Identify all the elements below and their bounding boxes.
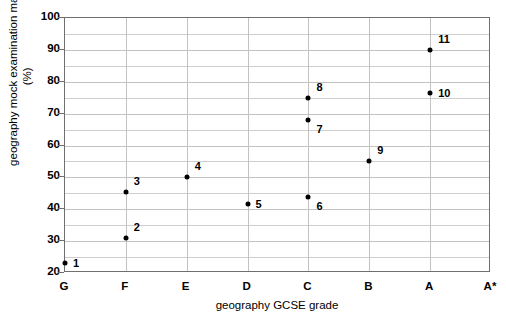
data-point [123,235,128,240]
data-point-label: 2 [134,222,140,233]
plot-area: 1234567891011 [64,17,490,272]
data-point-label: 10 [438,88,450,99]
gridline-horizontal [65,209,489,210]
gridline-vertical [369,18,370,271]
data-point-label: 7 [316,124,322,135]
y-tick-label: 40 [2,203,60,215]
data-point [306,194,311,199]
gridline-horizontal [65,177,489,178]
gridline-horizontal [65,98,489,99]
x-axis-title: geography GCSE grade [64,300,490,312]
gridline-horizontal [65,241,489,242]
gridline-horizontal [65,82,489,83]
data-point [123,189,128,194]
data-point-label: 1 [73,258,79,269]
data-point [306,95,311,100]
x-tick-label: A [425,281,433,293]
x-tick-label: B [364,281,372,293]
data-point [184,175,189,180]
data-point [428,47,433,52]
gridline-horizontal [65,146,489,147]
x-tick-label: E [182,281,190,293]
data-point [306,118,311,123]
y-tick-label: 30 [2,234,60,246]
gridline-horizontal [65,50,489,51]
y-tick-mark [58,272,64,273]
y-tick-label: 20 [2,266,60,278]
data-point-label: 11 [438,34,450,45]
data-point-label: 8 [316,82,322,93]
gridline-horizontal [65,130,489,131]
data-point [367,159,372,164]
scatter-chart: 2030405060708090100 1234567891011 GFEDCB… [0,0,506,320]
gridline-horizontal [65,34,489,35]
gridline-vertical [248,18,249,271]
data-point [245,202,250,207]
gridline-horizontal [65,66,489,67]
data-point-label: 4 [195,161,201,172]
gridline-vertical [187,18,188,271]
gridline-horizontal [65,193,489,194]
data-point [428,90,433,95]
x-tick-label: G [60,281,69,293]
gridline-horizontal [65,161,489,162]
x-tick-label: C [303,281,311,293]
data-point-label: 6 [316,201,322,212]
gridline-horizontal [65,225,489,226]
gridline-horizontal [65,257,489,258]
x-tick-label: D [242,281,250,293]
data-point-label: 3 [134,176,140,187]
x-tick-label: A* [484,281,497,293]
gridline-horizontal [65,114,489,115]
data-point-label: 5 [256,199,262,210]
data-point-label: 9 [377,145,383,156]
y-axis-title-line1: geography mock examination mark [6,0,20,191]
gridline-vertical [126,18,127,271]
x-tick-label: F [121,281,128,293]
data-point [63,261,68,266]
x-axis-ticks: GFEDCBAA* [64,281,490,297]
gridline-vertical [308,18,309,271]
y-axis-title-line2: (%) [20,0,34,191]
gridline-vertical [430,18,431,271]
y-axis-title: geography mock examination mark (%) [6,0,35,191]
